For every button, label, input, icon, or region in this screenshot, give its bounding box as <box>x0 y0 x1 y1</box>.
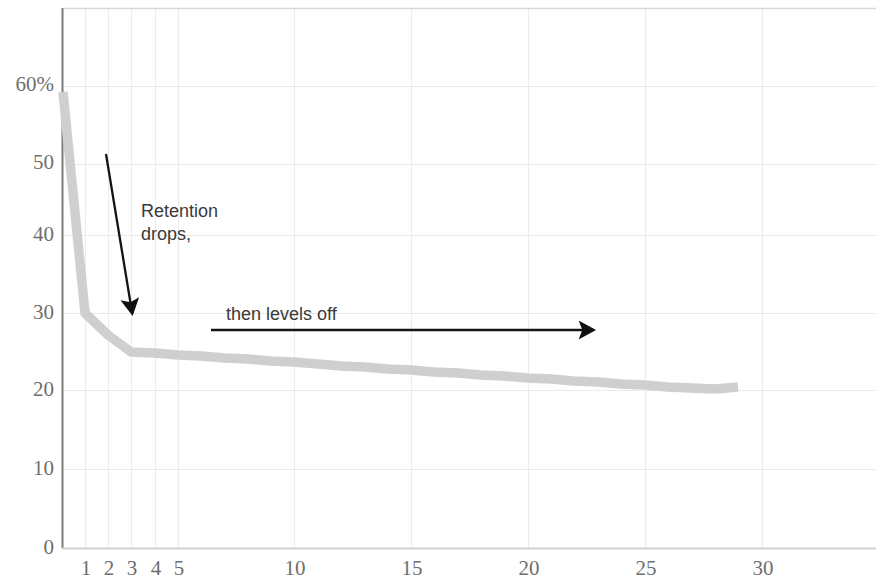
retention-curve-chart: 60% 50 40 30 20 10 0 1 2 3 4 5 10 15 20 … <box>0 0 876 586</box>
x-tick-label-30: 30 <box>743 556 783 581</box>
plot-background <box>62 8 876 548</box>
y-tick-label-50: 50 <box>0 150 54 175</box>
y-tick-label-60: 60% <box>0 72 54 97</box>
x-tick-label-20: 20 <box>509 556 549 581</box>
x-tick-label-10: 10 <box>275 556 315 581</box>
x-tick-label-5: 5 <box>159 556 199 581</box>
annotation-retention-drops: Retention drops, <box>141 200 218 247</box>
annotation-retention-drops-line1: Retention <box>141 200 218 223</box>
y-tick-label-20: 20 <box>0 377 54 402</box>
chart-canvas <box>0 0 876 586</box>
y-tick-label-30: 30 <box>0 300 54 325</box>
y-tick-label-0: 0 <box>0 535 54 560</box>
annotation-then-levels-off: then levels off <box>226 303 337 326</box>
annotation-retention-drops-line2: drops, <box>141 223 218 246</box>
x-tick-label-25: 25 <box>626 556 666 581</box>
x-tick-label-15: 15 <box>392 556 432 581</box>
y-tick-label-10: 10 <box>0 456 54 481</box>
y-tick-label-40: 40 <box>0 222 54 247</box>
